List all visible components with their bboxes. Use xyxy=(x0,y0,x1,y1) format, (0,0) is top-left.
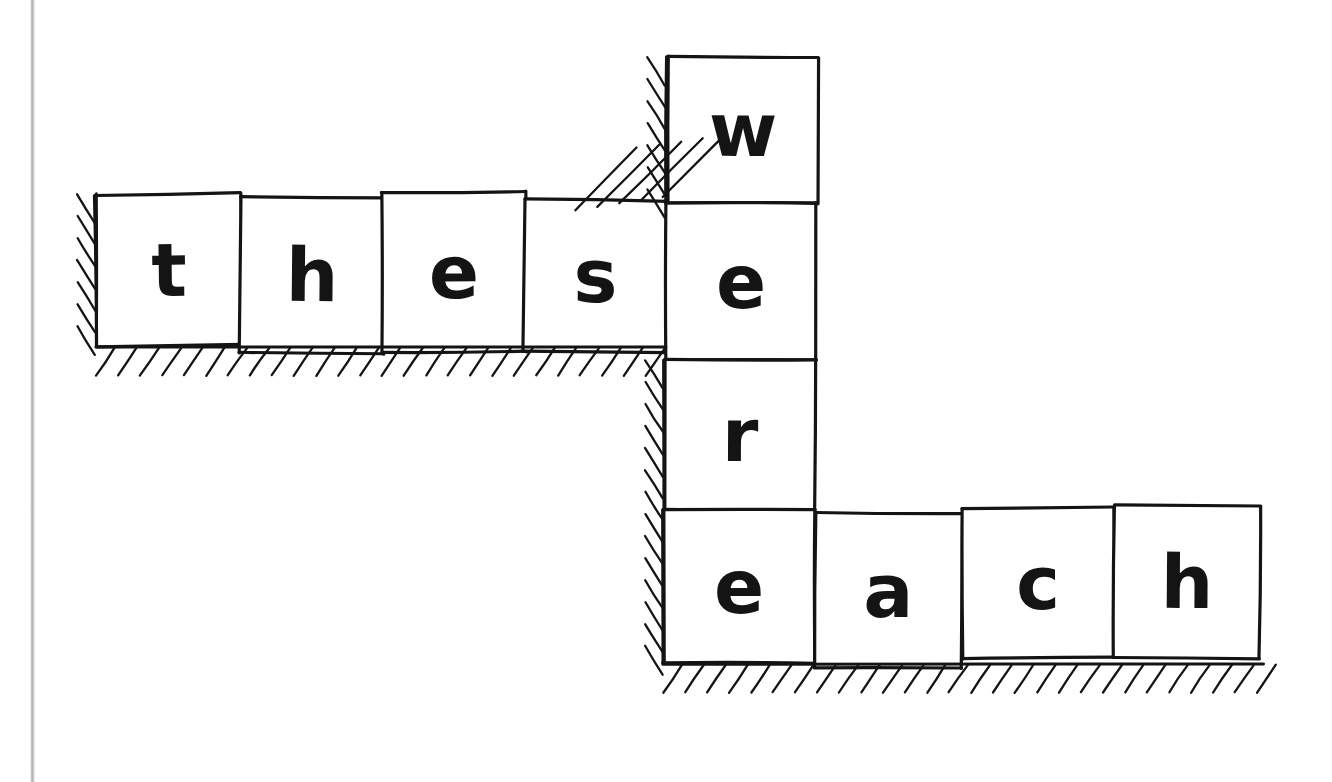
tile-box xyxy=(1113,505,1261,659)
tile-box xyxy=(961,507,1115,659)
tile-box xyxy=(664,359,815,510)
diagram-canvas: theswereach xyxy=(0,0,1332,782)
hatch-run-vertical xyxy=(645,360,664,675)
tile-box xyxy=(814,512,963,668)
hatch-run-vertical xyxy=(647,57,666,218)
tile-box xyxy=(667,56,818,204)
hatch-run-horizontal xyxy=(663,664,1276,693)
tile-box xyxy=(663,509,815,663)
tile-box xyxy=(523,199,668,353)
tile-figure xyxy=(0,0,1332,782)
tile-box xyxy=(381,191,527,353)
tile-box xyxy=(239,196,385,354)
tile-box-group xyxy=(94,56,1261,669)
tile-box xyxy=(665,203,816,360)
tile-box xyxy=(94,193,243,348)
